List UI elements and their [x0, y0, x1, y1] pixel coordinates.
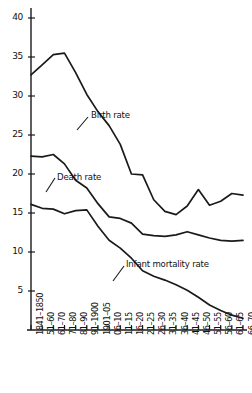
y-tick-label: 5 [1, 285, 23, 295]
x-tick-label: 06–10 [113, 312, 123, 335]
leader-line-0 [77, 117, 88, 130]
y-tick-label: 10 [1, 246, 23, 256]
y-tick-label: 15 [1, 207, 23, 217]
y-tick-label: 20 [1, 168, 23, 178]
x-tick-label: 61–70 [57, 312, 67, 335]
x-tick-label: 31–35 [168, 312, 178, 335]
x-tick-label: 26–30 [157, 312, 167, 335]
x-tick-label: 91–1900 [90, 302, 100, 335]
x-tick-label: 11–15 [124, 312, 134, 335]
data-series-group [31, 53, 243, 318]
x-tick-label: 1901–05 [102, 302, 112, 335]
series-line-0 [31, 53, 243, 214]
y-tick-label: 35 [1, 51, 23, 61]
series-label-2: Infant mortality rate [126, 259, 209, 269]
x-tick-label: 61–65 [235, 312, 245, 335]
x-tick-label: 66–70 [247, 312, 252, 335]
series-line-1 [31, 155, 243, 242]
x-tick-label: 51–60 [46, 312, 56, 335]
x-tick-label: 21–25 [146, 312, 156, 335]
x-tick-label: 1841–1850 [35, 293, 45, 335]
x-tick-label: 46–50 [202, 312, 212, 335]
birth-death-infant-mortality-chart: 510152025303540 1841–185051–6061–7071–80… [0, 0, 252, 393]
y-tick-label: 40 [1, 12, 23, 22]
leader-line-1 [46, 178, 55, 192]
annotation-leader-lines [46, 117, 124, 281]
x-tick-label: 51–55 [213, 312, 223, 335]
series-label-1: Death rate [57, 172, 101, 182]
y-tick-label: 30 [1, 90, 23, 100]
x-tick-label: 81–90 [79, 312, 89, 335]
y-tick-label: 25 [1, 129, 23, 139]
axes-group [27, 8, 247, 330]
x-tick-label: 41–45 [191, 312, 201, 335]
x-tick-label: 56–60 [224, 312, 234, 335]
leader-line-2 [113, 266, 124, 281]
x-tick-label: 36–40 [180, 312, 190, 335]
x-tick-label: 71–80 [68, 312, 78, 335]
x-tick-label: 16–20 [135, 312, 145, 335]
series-label-0: Birth rate [91, 110, 130, 120]
